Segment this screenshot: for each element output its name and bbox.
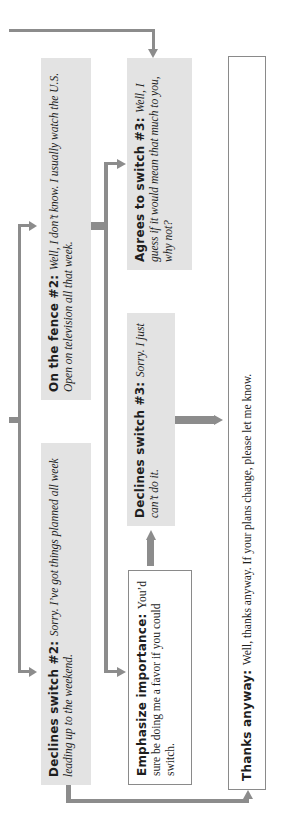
node-label: Declines switch #3: (133, 377, 147, 518)
connector-fence-to-agrees (104, 162, 118, 165)
connector-upstream-to-agrees (9, 29, 155, 32)
node-text: Well, thanks anyway. If your plans chang… (241, 374, 253, 665)
connector-fence-stub (91, 222, 105, 230)
arrowhead-to-declines-2 (29, 667, 37, 677)
connector-upstream-stub (9, 417, 19, 423)
connector-upstream-left-trunk (18, 225, 21, 672)
node-label: Thanks anyway: (240, 665, 254, 781)
node-declines-switch-2: Declines switch #2: Sorry. I’ve got thin… (41, 443, 91, 785)
connector-emphasize-to-declines-3 (147, 538, 154, 566)
arrowhead-fence-to-agrees (117, 159, 126, 169)
connector-upstream-to-agrees-drop (152, 30, 155, 50)
node-thanks-anyway: Thanks anyway: Well, thanks anyway. If y… (228, 56, 266, 790)
connector-fence-to-emphasize (104, 670, 118, 673)
arrowhead-to-agrees (148, 49, 158, 58)
node-agrees-switch-3: Agrees to switch #3: Well, I guess if it… (127, 58, 192, 270)
arrowhead-fence-to-emphasize (117, 667, 126, 677)
node-label: On the fence #2: (47, 270, 61, 392)
node-label: Declines switch #2: (47, 636, 61, 777)
node-on-the-fence-2: On the fence #2: Well, I don’t know. I u… (41, 58, 91, 400)
arrowhead-declines-2-to-thanks (243, 790, 253, 799)
connector-declines-2-across (66, 799, 248, 803)
arrowhead-to-fence (29, 221, 37, 231)
connector-fence-trunk (104, 162, 108, 672)
node-emphasize-importance: Emphasize importance: You’d sure be doin… (128, 570, 192, 785)
node-label: Emphasize importance: (135, 609, 149, 776)
connector-declines-3-to-thanks (175, 416, 215, 424)
node-declines-switch-3: Declines switch #3: Sorry. I just can’t … (127, 313, 175, 526)
node-label: Agrees to switch #3: (133, 113, 147, 262)
flowchart-canvas: On the fence #2: Well, I don’t know. I u… (0, 0, 282, 836)
arrowhead-emphasize-to-declines-3 (146, 530, 156, 540)
arrowhead-declines-3-to-thanks (214, 415, 223, 425)
